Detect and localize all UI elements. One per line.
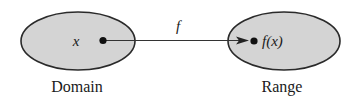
domain-point xyxy=(99,37,106,44)
domain-caption: Domain xyxy=(51,78,103,95)
function-label: f xyxy=(176,18,182,34)
function-mapping-diagram: x f(x) f Domain Range xyxy=(0,0,362,107)
range-point xyxy=(250,37,257,44)
range-caption: Range xyxy=(262,78,303,96)
range-element-label: f(x) xyxy=(262,33,283,50)
domain-element-label: x xyxy=(72,33,80,49)
